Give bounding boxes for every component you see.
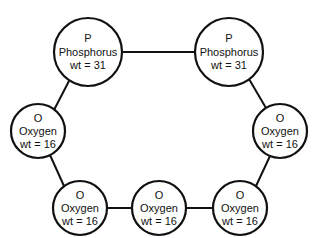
atom-symbol: O: [155, 189, 164, 201]
bond-o-left-p1: [54, 81, 69, 110]
atom-o-bottom-left: O Oxygen wt = 16: [53, 181, 107, 235]
molecule-diagram: P Phosphorus wt = 31 P Phosphorus wt = 3…: [0, 0, 313, 238]
atom-weight: wt = 16: [61, 215, 98, 227]
atom-symbol: P: [84, 32, 91, 44]
atom-weight: wt = 31: [210, 59, 247, 71]
atom-weight: wt = 16: [221, 215, 258, 227]
atom-p2: P Phosphorus wt = 31: [195, 18, 263, 86]
atom-symbol: O: [76, 189, 85, 201]
atom-weight: wt = 16: [19, 138, 56, 150]
atom-symbol: O: [34, 112, 43, 124]
atom-o-bottom-middle: O Oxygen wt = 16: [132, 181, 186, 235]
atom-o-left: O Oxygen wt = 16: [11, 104, 65, 158]
atom-name: Oxygen: [19, 125, 57, 137]
bond-p2-o-right: [249, 79, 266, 108]
atom-name: Oxygen: [261, 125, 299, 137]
atom-o-right: O Oxygen wt = 16: [253, 104, 307, 158]
atom-name: Oxygen: [221, 202, 259, 214]
atom-symbol: O: [236, 189, 245, 201]
atom-weight: wt = 16: [140, 215, 177, 227]
atom-symbol: P: [225, 32, 232, 44]
bond-o-right-o-bottom-right: [256, 156, 270, 186]
atom-weight: wt = 31: [69, 59, 106, 71]
atom-p1: P Phosphorus wt = 31: [54, 18, 122, 86]
atom-name: Phosphorus: [200, 46, 259, 58]
bond-o-bottom-left-o-left: [50, 155, 64, 186]
atom-name: Oxygen: [140, 202, 178, 214]
atom-name: Phosphorus: [59, 46, 118, 58]
atom-symbol: O: [276, 112, 285, 124]
atom-name: Oxygen: [61, 202, 99, 214]
atom-weight: wt = 16: [261, 138, 298, 150]
atom-o-bottom-right: O Oxygen wt = 16: [213, 181, 267, 235]
